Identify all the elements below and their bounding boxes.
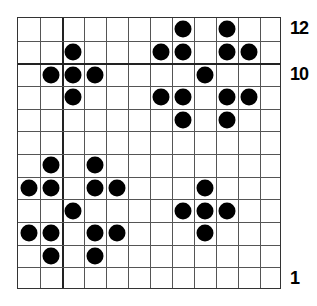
game-piece[interactable]	[65, 44, 82, 61]
game-piece[interactable]	[219, 89, 236, 106]
grid-line-horizontal	[18, 154, 280, 155]
game-piece[interactable]	[65, 202, 82, 219]
game-piece[interactable]	[43, 66, 60, 83]
row-label: 1	[290, 267, 299, 288]
game-piece[interactable]	[241, 89, 258, 106]
row-label: 10	[290, 63, 308, 84]
game-piece[interactable]	[43, 180, 60, 197]
game-piece[interactable]	[43, 225, 60, 242]
game-piece[interactable]	[21, 225, 38, 242]
game-piece[interactable]	[87, 248, 104, 265]
game-board[interactable]	[17, 17, 281, 289]
game-piece[interactable]	[87, 157, 104, 174]
game-piece[interactable]	[65, 89, 82, 106]
grid-line-vertical	[106, 18, 107, 288]
game-piece[interactable]	[109, 180, 126, 197]
game-piece[interactable]	[87, 225, 104, 242]
game-piece[interactable]	[219, 44, 236, 61]
grid-line-horizontal	[18, 131, 280, 132]
grid-line-horizontal	[18, 41, 280, 42]
game-piece[interactable]	[43, 157, 60, 174]
game-piece[interactable]	[153, 89, 170, 106]
grid-line-vertical	[84, 18, 85, 288]
grid-line-vertical	[260, 18, 261, 288]
game-piece[interactable]	[175, 89, 192, 106]
game-piece[interactable]	[175, 202, 192, 219]
grid-line-vertical	[128, 18, 129, 288]
grid-line-horizontal	[18, 86, 280, 87]
grid-line-vertical	[216, 18, 217, 288]
grid-line-vertical	[238, 18, 239, 288]
grid-line-vertical	[194, 18, 195, 288]
grid-line-horizontal	[18, 267, 280, 268]
game-piece[interactable]	[219, 112, 236, 129]
grid-line-horizontal	[18, 222, 280, 223]
game-piece[interactable]	[87, 66, 104, 83]
game-piece[interactable]	[241, 44, 258, 61]
game-piece[interactable]	[219, 202, 236, 219]
grid-line-horizontal	[18, 177, 280, 178]
game-piece[interactable]	[175, 112, 192, 129]
grid-line-horizontal	[18, 63, 280, 65]
grid-line-horizontal	[18, 109, 280, 110]
game-piece[interactable]	[153, 44, 170, 61]
game-piece[interactable]	[87, 180, 104, 197]
game-piece[interactable]	[175, 21, 192, 38]
game-piece[interactable]	[109, 225, 126, 242]
grid-line-vertical	[40, 18, 41, 288]
grid-line-horizontal	[18, 245, 280, 246]
game-piece[interactable]	[197, 225, 214, 242]
game-piece[interactable]	[21, 180, 38, 197]
grid-line-vertical	[150, 18, 151, 288]
game-piece[interactable]	[43, 248, 60, 265]
game-piece[interactable]	[219, 21, 236, 38]
game-piece[interactable]	[175, 44, 192, 61]
game-piece[interactable]	[197, 66, 214, 83]
game-piece[interactable]	[197, 202, 214, 219]
grid-line-horizontal	[18, 199, 280, 200]
game-piece[interactable]	[65, 66, 82, 83]
grid-line-vertical	[172, 18, 173, 288]
grid-line-vertical	[62, 18, 64, 288]
game-piece[interactable]	[197, 180, 214, 197]
row-label: 12	[290, 18, 308, 39]
